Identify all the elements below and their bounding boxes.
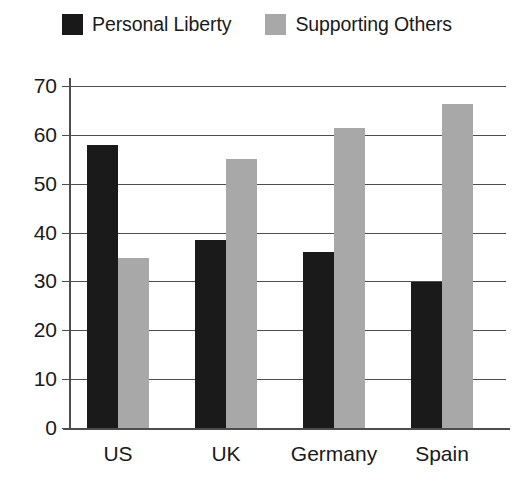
y-axis-line [69,78,71,429]
y-tick-mark-50 [62,184,70,185]
gridline-50 [69,184,506,185]
y-tick-label-20: 20 [1,319,57,340]
bar-germany-supporting-others [334,128,365,428]
bar-germany-personal-liberty [303,252,334,428]
gridline-60 [69,135,506,136]
y-tick-label-70: 70 [1,75,57,96]
y-tick-label-60: 60 [1,124,57,145]
legend-entry-personal-liberty: Personal Liberty [62,14,231,35]
gridline-70 [69,86,506,87]
chart-legend: Personal Liberty Supporting Others [0,14,514,35]
bar-us-personal-liberty [87,145,118,428]
x-tick-label-uk: UK [173,442,279,466]
x-axis-line [63,428,510,430]
y-tick-mark-20 [62,330,70,331]
bar-spain-personal-liberty [411,282,442,428]
y-tick-mark-0 [62,428,70,429]
y-tick-label-10: 10 [1,368,57,389]
x-tick-label-spain: Spain [389,442,495,466]
y-tick-mark-40 [62,233,70,234]
bar-uk-personal-liberty [195,240,226,428]
y-tick-mark-10 [62,379,70,380]
y-tick-mark-70 [62,86,70,87]
legend-label-personal-liberty: Personal Liberty [92,14,231,35]
x-tick-label-germany: Germany [281,442,387,466]
legend-swatch-icon-personal-liberty [62,14,83,35]
y-tick-mark-60 [62,135,70,136]
y-tick-label-30: 30 [1,270,57,291]
y-tick-label-0: 0 [1,417,57,438]
bar-us-supporting-others [118,258,149,428]
bar-chart: Personal Liberty Supporting Others 01020… [0,0,514,483]
x-tick-label-us: US [65,442,171,466]
y-tick-label-40: 40 [1,222,57,243]
gridline-40 [69,233,506,234]
legend-label-supporting-others: Supporting Others [295,14,452,35]
y-tick-mark-30 [62,281,70,282]
bar-uk-supporting-others [226,159,257,428]
bar-spain-supporting-others [442,104,473,428]
legend-entry-supporting-others: Supporting Others [265,14,452,35]
y-tick-label-50: 50 [1,173,57,194]
legend-swatch-icon-supporting-others [265,14,286,35]
plot-area: 010203040506070 USUKGermanySpain [69,86,506,429]
